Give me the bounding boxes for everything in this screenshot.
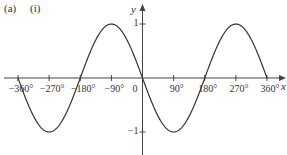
y-tick-label: −1	[128, 125, 139, 136]
x-tick-label: 180°	[198, 83, 217, 94]
x-tick-label: 0	[133, 83, 138, 94]
sine-chart	[0, 0, 287, 155]
x-tick-label: 90°	[170, 83, 184, 94]
x-tick-label: 270°	[229, 83, 248, 94]
x-axis-label: x	[281, 80, 286, 92]
x-tick-label: −270°	[40, 83, 65, 94]
subpart-label: (i)	[30, 2, 40, 14]
y-tick-label: 1	[134, 17, 139, 28]
y-axis-arrow-icon	[140, 4, 146, 11]
y-axis-label: y	[131, 3, 136, 15]
x-tick-label: −180°	[71, 83, 96, 94]
x-tick-label: −360°	[9, 83, 34, 94]
part-label: (a)	[4, 2, 16, 14]
x-tick-label: −90°	[105, 83, 125, 94]
x-tick-label: 360°	[261, 83, 280, 94]
